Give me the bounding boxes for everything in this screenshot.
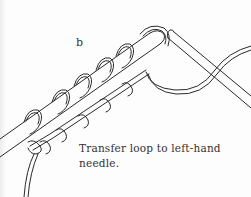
stitch-loops <box>24 26 169 134</box>
right-hand-needle <box>167 30 251 108</box>
caption-line-2: needle. <box>79 156 251 171</box>
knitting-illustration: b Transfer loop to left-hand needle. <box>0 0 251 197</box>
figure-caption: Transfer loop to left-hand needle. <box>79 141 251 171</box>
step-label: b <box>76 36 83 49</box>
left-hand-needle <box>0 31 165 157</box>
working-yarn <box>146 46 251 94</box>
tail-yarn <box>24 154 38 197</box>
caption-line-1: Transfer loop to left-hand <box>79 141 251 156</box>
